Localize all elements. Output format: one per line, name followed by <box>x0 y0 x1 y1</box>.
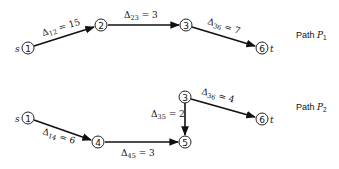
path-p2: Δ14 = 6 Δ45 = 3 Δ35 = 2 Δ36 = 4 s 1 4 5 … <box>15 86 327 160</box>
svg-text:5: 5 <box>182 138 188 148</box>
svg-text:2: 2 <box>98 21 104 31</box>
svg-text:6: 6 <box>259 115 265 125</box>
node-1: 1 <box>22 42 34 54</box>
sink-label: t <box>270 44 274 54</box>
edge-label-36: Δ36 = 7 <box>206 16 242 37</box>
svg-text:4: 4 <box>95 138 101 148</box>
node-2: 2 <box>95 19 107 31</box>
svg-text:1: 1 <box>25 44 31 54</box>
svg-text:3: 3 <box>183 21 189 31</box>
path-label-p1: Path P1 <box>296 30 327 41</box>
svg-text:3: 3 <box>182 93 188 103</box>
edge-label-23: Δ23 = 3 <box>124 10 158 22</box>
sink-label: t <box>270 115 274 125</box>
node-6: 6 <box>256 113 268 125</box>
node-3: 3 <box>179 91 191 103</box>
svg-text:6: 6 <box>259 44 265 54</box>
edge-label-12: Δ12 = 15 <box>41 17 83 40</box>
source-label: s <box>15 114 20 124</box>
edge-label-35: Δ35 = 2 <box>151 109 185 121</box>
svg-text:1: 1 <box>25 114 31 124</box>
path-p1: Δ12 = 15 Δ23 = 3 Δ36 = 7 s 1 2 3 6 t Pat <box>15 10 327 54</box>
node-5: 5 <box>179 136 191 148</box>
node-6: 6 <box>256 42 268 54</box>
edge-label-45: Δ45 = 3 <box>121 148 155 160</box>
source-label: s <box>15 44 20 54</box>
path-label-p2: Path P2 <box>296 102 327 113</box>
node-1: 1 <box>22 112 34 124</box>
node-4: 4 <box>92 136 104 148</box>
node-3: 3 <box>180 19 192 31</box>
path-diagram: Δ12 = 15 Δ23 = 3 Δ36 = 7 s 1 2 3 6 t Pat <box>0 0 339 169</box>
